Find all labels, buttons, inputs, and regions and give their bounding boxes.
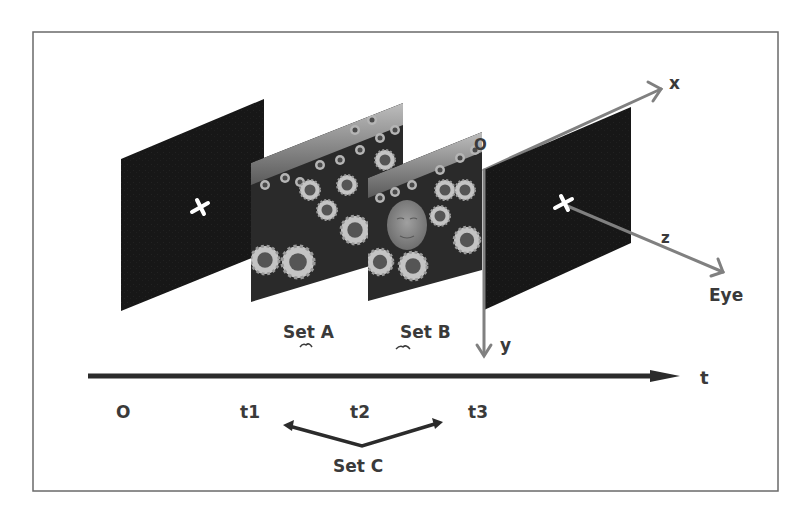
- tick-label-origin: O: [116, 402, 130, 422]
- set-a-label: Set A: [283, 322, 335, 342]
- tick-label-t1: t1: [240, 402, 260, 422]
- y-axis-label: y: [500, 335, 511, 355]
- time-axis-label: t: [700, 367, 709, 388]
- tick-label-t3: t3: [468, 402, 488, 422]
- z-axis-label: z: [661, 229, 670, 247]
- experiment-diagram: x O z Eye y Set A Set B t O t1 t2 t3 Set…: [0, 0, 810, 520]
- set-c-label: Set C: [333, 456, 383, 476]
- origin-label: O: [474, 136, 487, 154]
- face-image: [387, 200, 427, 250]
- set-b-label: Set B: [400, 322, 451, 342]
- x-axis-label: x: [669, 73, 680, 93]
- tick-label-t2: t2: [350, 402, 370, 422]
- eye-label: Eye: [709, 285, 743, 305]
